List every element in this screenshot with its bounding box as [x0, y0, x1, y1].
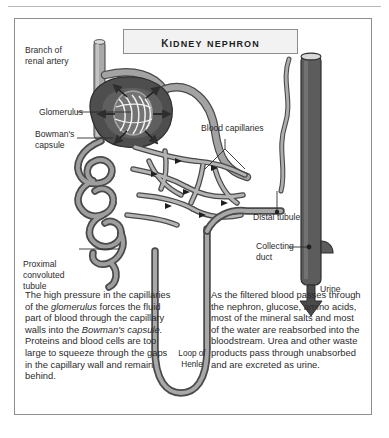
paragraph-reabsorption: As the filtered blood passes through the… — [211, 289, 361, 370]
page-root: Kidney nephron Branch of renal artery Gl… — [0, 0, 389, 438]
label-collecting-duct: Collecting duct — [256, 241, 302, 263]
label-bowmans-capsule: Bowman's capsule — [35, 129, 91, 151]
page-top-rule — [8, 6, 381, 7]
label-loop-of-henle: Loop of Henle — [170, 349, 214, 370]
label-glomerulus: Glomerulus — [39, 107, 99, 118]
para-left-seg3: Proteins and blood cells are too large t… — [25, 335, 167, 381]
para-left-em2: Bowman's capsule. — [82, 324, 162, 335]
collecting-duct — [301, 53, 333, 285]
para-right-text: As the filtered blood passes through the… — [211, 289, 361, 370]
para-left-em1: glomerulus — [51, 301, 97, 312]
label-branch-renal-artery: Branch of renal artery — [25, 45, 95, 67]
label-proximal-convoluted-tubule: Proximal convoluted tubule — [23, 259, 87, 293]
paragraph-filtration: The high pressure in the capillaries of … — [25, 289, 173, 382]
figure-panel: Kidney nephron Branch of renal artery Gl… — [14, 18, 372, 415]
label-blood-capillaries: Blood capillaries — [201, 123, 277, 134]
page-title: Kidney nephron — [161, 34, 260, 50]
renal-vein-branch — [281, 59, 289, 191]
figure-title-plate: Kidney nephron — [123, 29, 298, 54]
label-distal-tubule: Distal tubule — [253, 212, 307, 223]
